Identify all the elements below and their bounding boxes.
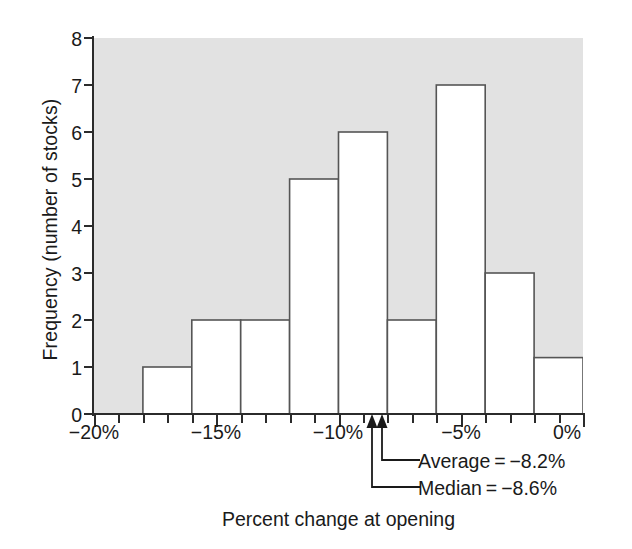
y-tick-label-8: 8 — [60, 30, 82, 50]
x-axis-title: Percent change at opening — [94, 508, 583, 531]
x-minor-tick — [412, 415, 414, 423]
x-minor-tick — [363, 415, 365, 423]
x-tick-label-zero: 0% — [553, 423, 613, 443]
x-tick-label-minus15: −15% — [176, 423, 256, 443]
histogram-figure: Frequency (number of stocks) 8 7 6 5 4 3… — [0, 0, 632, 549]
histogram-bar — [241, 320, 290, 414]
x-minor-tick — [510, 415, 512, 423]
x-minor-tick — [534, 415, 536, 423]
plot-area — [94, 38, 583, 414]
x-minor-tick — [143, 415, 145, 423]
median-annotation-label: Median = −8.6% — [418, 479, 557, 499]
histogram-bar — [192, 320, 241, 414]
y-tick-label-5: 5 — [60, 171, 82, 191]
x-minor-tick — [387, 415, 389, 423]
histogram-bar — [485, 273, 534, 414]
x-tick-label-minus5: −5% — [426, 423, 496, 443]
x-tick-label-minus10: −10% — [298, 423, 378, 443]
histogram-bars — [94, 38, 583, 414]
x-tick-label-minus20: −20% — [54, 423, 134, 443]
y-axis-line — [92, 36, 94, 416]
average-annotation-label: Average = −8.2% — [418, 452, 565, 472]
histogram-bar — [290, 179, 339, 414]
histogram-bar — [534, 358, 583, 414]
histogram-bar — [143, 367, 192, 414]
y-tick-label-1: 1 — [60, 359, 82, 379]
histogram-bar — [387, 320, 436, 414]
x-minor-tick — [290, 415, 292, 423]
histogram-bar — [339, 132, 388, 414]
y-tick-label-3: 3 — [60, 265, 82, 285]
y-tick-label-2: 2 — [60, 312, 82, 332]
histogram-bar — [436, 85, 485, 414]
x-minor-tick — [436, 415, 438, 423]
y-tick-label-4: 4 — [60, 218, 82, 238]
y-axis-tick-labels: 8 7 6 5 4 3 2 1 0 — [56, 0, 82, 430]
x-minor-tick — [485, 415, 487, 423]
y-tick-label-7: 7 — [60, 77, 82, 97]
y-tick-label-6: 6 — [60, 124, 82, 144]
x-minor-tick — [167, 415, 169, 423]
x-minor-tick — [265, 415, 267, 423]
